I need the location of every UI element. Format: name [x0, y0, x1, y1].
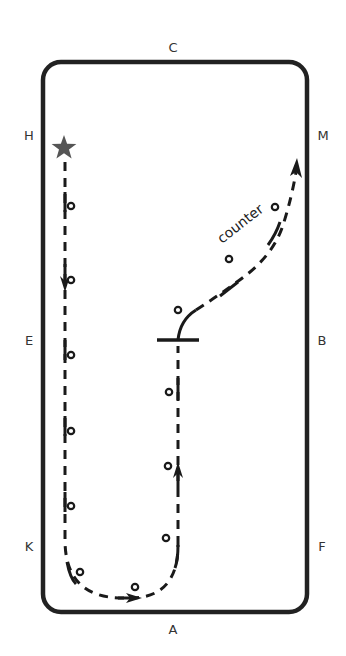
arena-outline — [43, 62, 307, 612]
letter-h: H — [24, 128, 34, 143]
letter-a: A — [169, 622, 178, 637]
letter-c: C — [168, 40, 177, 55]
letter-m: M — [317, 128, 328, 143]
stride-markers — [68, 203, 278, 590]
start-star-icon — [52, 135, 77, 159]
dressage-arena-diagram: C A H E K M B F — [0, 0, 346, 656]
letter-f: F — [318, 539, 325, 554]
route-left-track — [65, 162, 130, 598]
counter-label: counter — [214, 200, 266, 246]
route-counter-curve — [178, 172, 296, 340]
route-bottom-turn — [118, 545, 178, 598]
arrow-up-m-icon — [290, 158, 302, 178]
letter-e: E — [25, 333, 33, 348]
letter-k: K — [25, 539, 34, 554]
letter-b: B — [318, 333, 327, 348]
